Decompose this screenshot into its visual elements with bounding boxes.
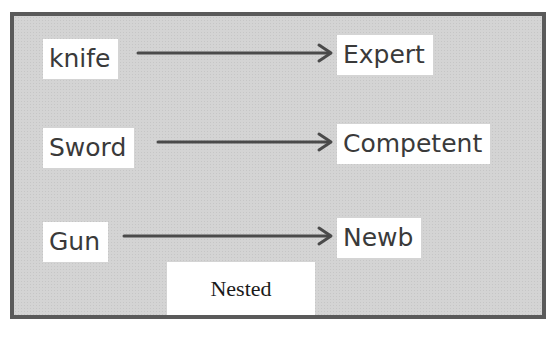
arrow-icon-gun-newb <box>124 228 331 244</box>
arrow-icon-knife-expert <box>138 45 331 61</box>
arrow-icon-sword-competent <box>158 134 331 150</box>
arrows-layer <box>0 0 559 339</box>
